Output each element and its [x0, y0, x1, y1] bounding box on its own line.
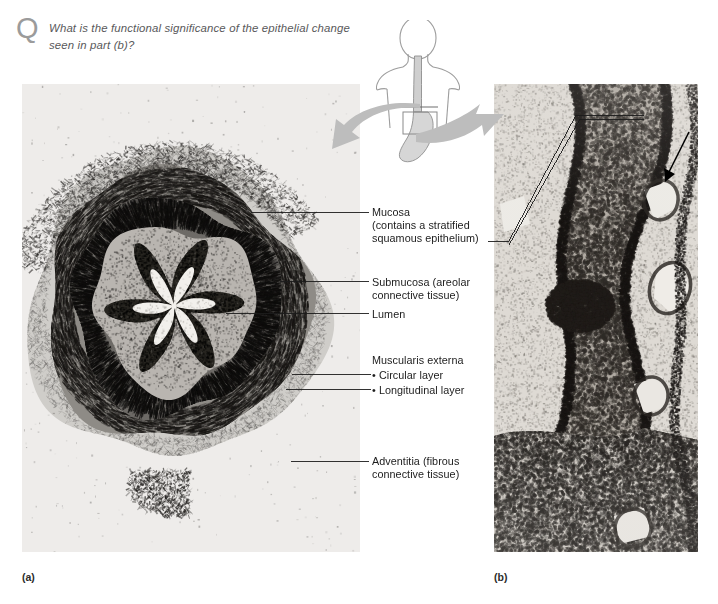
label-adventitia: Adventitia (fibrous connective tissue) — [372, 455, 502, 481]
question-text: What is the functional significance of t… — [49, 20, 356, 53]
label-longitudinal-layer: • Longitudinal layer — [372, 384, 512, 397]
micrograph-panel-a — [22, 84, 360, 552]
question-mark-icon: Q — [16, 14, 39, 43]
label-mucosa: Mucosa (contains a stratified squamous e… — [372, 206, 500, 244]
label-lumen: Lumen — [372, 308, 500, 321]
transfer-arrow-to-panel-b — [414, 100, 506, 164]
question-block: Q What is the functional significance of… — [16, 14, 356, 66]
label-muscularis-externa: Muscularis externa — [372, 354, 504, 367]
panel-b-caption: (b) — [494, 571, 507, 583]
esophagus-cross-section-image — [22, 84, 360, 552]
figure-page: Q What is the functional significance of… — [0, 0, 718, 604]
label-submucosa: Submucosa (areolar connective tissue) — [372, 276, 500, 302]
micrograph-panel-b — [494, 84, 698, 552]
label-circular-layer: • Circular layer — [372, 369, 504, 382]
transfer-arrow-to-panel-a — [330, 102, 422, 166]
panel-a-caption: (a) — [22, 571, 35, 583]
esophageal-epithelium-image — [494, 84, 698, 552]
